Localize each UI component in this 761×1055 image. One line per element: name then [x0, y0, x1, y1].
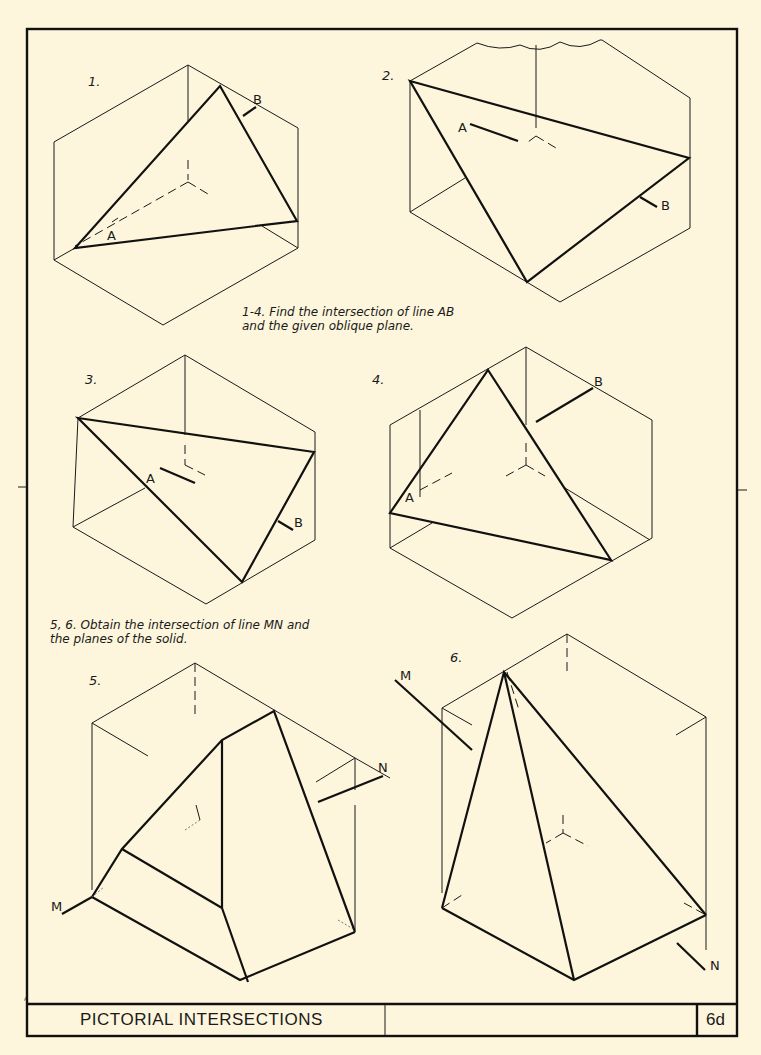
corner-mark: A	[24, 996, 28, 1002]
problem-2-figure	[410, 40, 690, 302]
problem-2-number: 2.	[382, 68, 394, 83]
instructions-5-6: 5, 6. Obtain the intersection of line MN…	[50, 618, 309, 646]
svg-text:A: A	[405, 490, 414, 505]
instruction-line: 1-4. Find the intersection of line AB	[242, 305, 454, 319]
svg-text:N: N	[710, 958, 720, 973]
problem-6-figure	[395, 634, 706, 980]
svg-text:M: M	[51, 899, 62, 914]
problem-4-figure	[390, 347, 652, 618]
svg-text:A: A	[107, 228, 116, 243]
instruction-line: the planes of the solid.	[50, 632, 309, 646]
figure-labels: 1. B A 2. A B 3. A B 4. B A 5. M N 6. M …	[24, 68, 720, 1002]
svg-text:B: B	[661, 198, 670, 213]
problem-4-number: 4.	[372, 372, 384, 387]
drawing-sheet: 1. B A 2. A B 3. A B 4. B A 5. M N 6. M …	[0, 0, 761, 1055]
sheet-number: 6d	[706, 1010, 725, 1030]
svg-text:N: N	[378, 760, 388, 775]
svg-text:A: A	[458, 120, 467, 135]
instruction-line: and the given oblique plane.	[242, 319, 454, 333]
problem-6-number: 6.	[450, 650, 462, 665]
svg-text:M: M	[400, 668, 411, 683]
problem-5-figure	[62, 663, 390, 982]
svg-text:A: A	[146, 471, 155, 486]
svg-text:B: B	[253, 92, 262, 107]
instruction-line: 5, 6. Obtain the intersection of line MN…	[50, 618, 309, 632]
svg-text:B: B	[594, 374, 603, 389]
sheet-title: PICTORIAL INTERSECTIONS	[80, 1010, 323, 1030]
svg-text:B: B	[294, 515, 303, 530]
instructions-1-4: 1-4. Find the intersection of line AB an…	[242, 305, 454, 333]
problem-3-number: 3.	[85, 372, 97, 387]
problem-5-number: 5.	[89, 673, 101, 688]
problem-3-figure	[73, 355, 315, 604]
problem-1-number: 1.	[88, 74, 100, 89]
